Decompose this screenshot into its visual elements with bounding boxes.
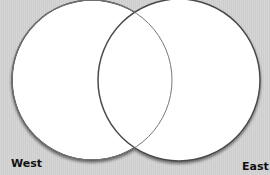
east-circle [98,0,260,161]
venn-diagram [0,0,270,175]
west-label: West [11,157,42,170]
east-label: East [242,160,269,173]
